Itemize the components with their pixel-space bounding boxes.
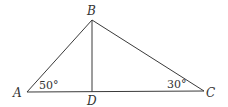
vertex-label-b: B: [86, 4, 96, 18]
triangle-diagram: B A C D 50° 30°: [0, 0, 228, 107]
segment-ab: [27, 20, 92, 92]
vertex-label-a: A: [12, 86, 22, 100]
angle-c-label: 30°: [167, 78, 187, 91]
vertex-label-c: C: [206, 86, 215, 100]
angle-a-label: 50°: [39, 79, 59, 92]
segment-bc: [92, 20, 204, 91]
vertex-label-d: D: [86, 94, 97, 107]
